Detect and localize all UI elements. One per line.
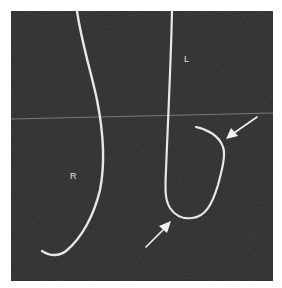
radiograph-figure: R L [0,0,282,288]
image-grain [11,11,273,281]
label-l: L [184,54,189,64]
label-r: R [70,171,77,181]
